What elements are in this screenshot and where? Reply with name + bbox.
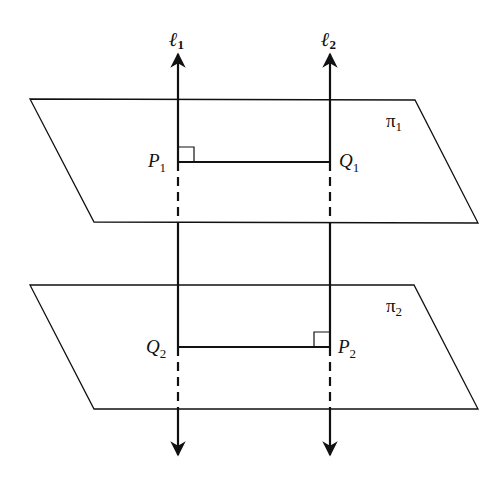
label-p2: P2 — [337, 336, 356, 361]
label-q1: Q1 — [339, 150, 359, 175]
label-l2: ℓ2 — [321, 28, 336, 52]
skew-lines-diagram: ℓ1 ℓ2 π1 π2 P1 Q1 Q2 P2 — [0, 0, 500, 477]
right-angle-p1 — [178, 147, 194, 162]
label-pi2: π2 — [386, 295, 402, 319]
label-p1: P1 — [147, 150, 166, 175]
label-q2: Q2 — [146, 336, 166, 361]
right-angle-p2 — [314, 332, 330, 347]
label-l1: ℓ1 — [169, 28, 184, 52]
label-pi1: π1 — [386, 110, 402, 134]
